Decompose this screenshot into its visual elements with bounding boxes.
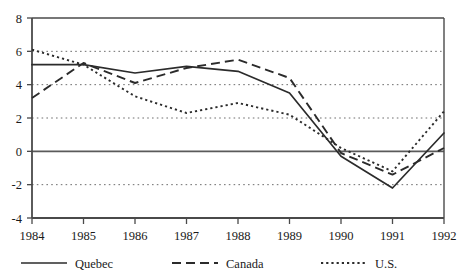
legend-label-canada: Canada	[226, 257, 264, 271]
y-tick-label-2: 2	[16, 112, 22, 126]
line-chart: 8 6 4 2 0 -2 -4 1984 1985 1986 1987 1988…	[0, 0, 472, 275]
y-tick-labels: 8 6 4 2 0 -2 -4	[12, 12, 23, 226]
y-tick-label-0: 0	[16, 145, 22, 159]
chart-svg: 8 6 4 2 0 -2 -4 1984 1985 1986 1987 1988…	[0, 0, 472, 275]
y-tick-label-6: 6	[16, 45, 22, 59]
x-tick-label-1988: 1988	[226, 229, 251, 243]
y-tick-label-8: 8	[16, 12, 22, 26]
x-tick-label-1990: 1990	[329, 229, 354, 243]
x-tick-label-1987: 1987	[174, 229, 199, 243]
x-tick-label-1984: 1984	[20, 229, 46, 243]
x-tick-label-1991: 1991	[380, 229, 405, 243]
y-tick-label-4: 4	[16, 78, 23, 92]
legend-label-us: U.S.	[375, 257, 397, 271]
legend-label-quebec: Quebec	[75, 257, 114, 271]
x-tick-label-1992: 1992	[432, 229, 457, 243]
plot-area-background	[32, 18, 444, 218]
x-tick-label-1989: 1989	[277, 229, 302, 243]
x-tick-label-1985: 1985	[71, 229, 96, 243]
x-tick-labels: 1984 1985 1986 1987 1988 1989 1990 1991 …	[20, 229, 457, 243]
y-tick-label-minus-4: -4	[12, 212, 23, 226]
y-tick-label-minus-2: -2	[12, 178, 22, 192]
chart-legend: Quebec Canada U.S.	[21, 257, 397, 271]
x-tick-label-1986: 1986	[123, 229, 148, 243]
